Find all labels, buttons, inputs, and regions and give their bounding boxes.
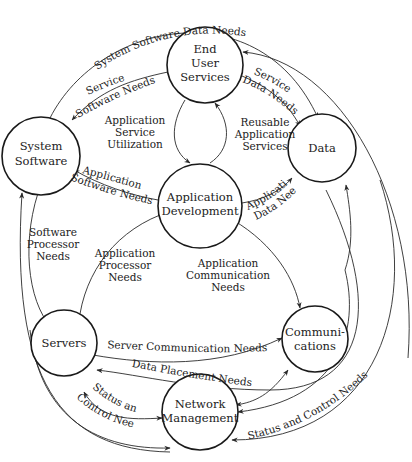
svg-text:Application: Application: [234, 128, 296, 140]
label-software-processor-needs: Software Processor Needs: [27, 226, 81, 262]
node-label: Data: [308, 141, 336, 155]
node-label: System: [20, 139, 63, 153]
node-label: End: [193, 42, 217, 56]
node-communications[interactable]: Communi- cations: [282, 306, 348, 372]
edge-reusable-application-services: [210, 103, 226, 163]
node-label: User: [191, 56, 219, 70]
node-label: Management: [162, 411, 239, 425]
node-label: Network: [175, 397, 227, 411]
architecture-diagram: End User Services System Software Data A…: [0, 0, 412, 462]
node-system-software[interactable]: System Software: [2, 117, 80, 195]
edge-data-arc-2: [345, 185, 351, 270]
svg-text:Application: Application: [94, 247, 156, 259]
label-reusable-application-services: Reusable Application Services: [234, 116, 296, 152]
node-label: Development: [161, 204, 238, 218]
node-network-management[interactable]: Network Management: [162, 374, 239, 450]
svg-text:Service: Service: [115, 126, 155, 138]
label-server-communication-needs: Server Communication Needs: [107, 338, 267, 354]
node-label: cations: [294, 339, 336, 353]
label-application-processor-needs: Application Processor Needs: [94, 247, 156, 283]
svg-text:Software: Software: [29, 226, 77, 238]
svg-text:Communication: Communication: [186, 269, 270, 281]
svg-text:Needs: Needs: [211, 281, 245, 293]
svg-text:Processor: Processor: [27, 238, 81, 250]
label-application-communication-needs: Application Communication Needs: [186, 257, 270, 293]
node-label: Servers: [42, 336, 87, 350]
svg-text:Processor: Processor: [99, 259, 153, 271]
node-label: Communi-: [285, 325, 345, 339]
node-label: Software: [15, 154, 68, 168]
node-label: Services: [180, 70, 230, 84]
svg-text:Needs: Needs: [36, 250, 70, 262]
node-label: Application: [166, 190, 234, 204]
node-application-development[interactable]: Application Development: [158, 164, 242, 248]
svg-text:Services: Services: [242, 140, 287, 152]
svg-text:Application: Application: [104, 114, 166, 126]
edge-application-service-utilization: [174, 100, 190, 163]
svg-text:Needs: Needs: [108, 271, 142, 283]
edge-software-processor-needs: [29, 193, 56, 332]
label-application-service-utilization: Application Service Utilization: [104, 114, 166, 150]
label-status-and-control-needs-right: Status and Control Needs: [246, 368, 369, 441]
node-data[interactable]: Data: [288, 114, 356, 182]
node-servers[interactable]: Servers: [31, 310, 97, 376]
svg-text:Utilization: Utilization: [107, 138, 163, 150]
svg-text:Reusable: Reusable: [241, 116, 290, 128]
svg-text:Application: Application: [197, 257, 259, 269]
